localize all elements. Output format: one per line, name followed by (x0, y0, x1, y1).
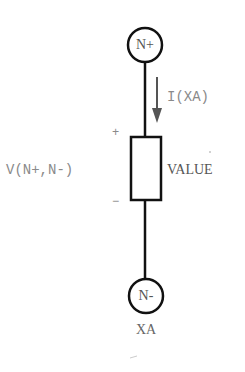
node-positive-label: N+ (127, 38, 163, 52)
minus-sign: − (112, 196, 119, 208)
element-box (131, 137, 161, 200)
node-negative-label: N- (128, 289, 164, 303)
voltage-label: V(N+,N-) (6, 163, 73, 177)
current-label: I(XA) (167, 90, 209, 104)
circuit-diagram (0, 0, 245, 372)
plus-sign: + (112, 127, 119, 139)
current-arrow-head-icon (152, 108, 162, 123)
element-name-label: XA (128, 323, 164, 337)
element-value-label: VALUE (167, 163, 213, 177)
